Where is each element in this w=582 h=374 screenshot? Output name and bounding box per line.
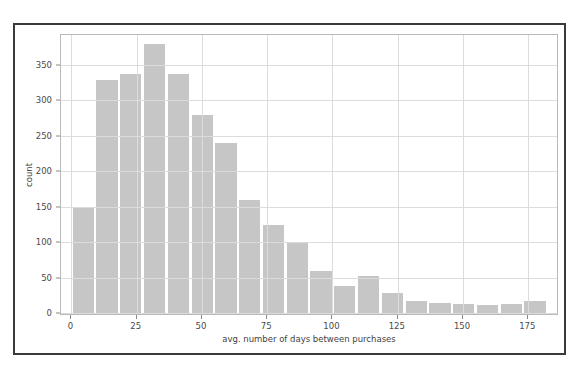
x-tick-mark bbox=[397, 315, 398, 319]
y-tick-label: 350 bbox=[36, 60, 52, 70]
y-axis-label: count bbox=[24, 163, 34, 187]
bar-series bbox=[61, 35, 557, 314]
chart-screenshot: count 050100150200250300350 avg. number … bbox=[0, 0, 582, 374]
y-tick-label: 50 bbox=[41, 273, 52, 283]
histogram-bar bbox=[263, 225, 284, 314]
histogram-bar bbox=[239, 200, 260, 314]
y-tick-label: 300 bbox=[36, 95, 52, 105]
gridline-vertical bbox=[71, 35, 72, 314]
x-tick-mark bbox=[462, 315, 463, 319]
x-tick-mark bbox=[136, 315, 137, 319]
y-tick-label: 0 bbox=[47, 308, 52, 318]
plot-area bbox=[60, 34, 558, 315]
y-tick-label: 250 bbox=[36, 131, 52, 141]
histogram-bar bbox=[215, 143, 236, 314]
gridline-horizontal bbox=[61, 278, 557, 279]
x-tick-label: 50 bbox=[196, 321, 207, 331]
histogram-bar bbox=[96, 80, 117, 314]
x-tick-label: 100 bbox=[323, 321, 339, 331]
gridline-horizontal bbox=[61, 313, 557, 314]
gridline-vertical bbox=[332, 35, 333, 314]
gridline-vertical bbox=[398, 35, 399, 314]
gridline-horizontal bbox=[61, 136, 557, 137]
x-tick-label: 150 bbox=[454, 321, 470, 331]
x-tick-label: 175 bbox=[519, 321, 535, 331]
gridline-horizontal bbox=[61, 207, 557, 208]
y-tick-label: 150 bbox=[36, 202, 52, 212]
x-tick-mark bbox=[331, 315, 332, 319]
gridline-vertical bbox=[267, 35, 268, 314]
gridline-horizontal bbox=[61, 100, 557, 101]
gridline-vertical bbox=[528, 35, 529, 314]
x-tick-label: 75 bbox=[261, 321, 272, 331]
gridline-vertical bbox=[137, 35, 138, 314]
histogram-bar bbox=[334, 286, 355, 314]
gridline-vertical bbox=[202, 35, 203, 314]
x-tick-label: 125 bbox=[389, 321, 405, 331]
gridline-vertical bbox=[463, 35, 464, 314]
y-axis: count 050100150200250300350 bbox=[15, 34, 60, 315]
histogram-bar bbox=[73, 207, 94, 314]
y-tick-label: 200 bbox=[36, 166, 52, 176]
figure-frame: count 050100150200250300350 avg. number … bbox=[13, 23, 566, 355]
histogram-bar bbox=[382, 293, 403, 314]
histogram-bar bbox=[358, 276, 379, 314]
x-tick-mark bbox=[70, 315, 71, 319]
histogram-bar bbox=[144, 44, 165, 314]
x-tick-label: 25 bbox=[130, 321, 141, 331]
x-axis-label: avg. number of days between purchases bbox=[60, 334, 558, 344]
x-tick-label: 0 bbox=[68, 321, 73, 331]
x-tick-mark bbox=[527, 315, 528, 319]
top-caption-text bbox=[8, 0, 208, 6]
x-tick-mark bbox=[266, 315, 267, 319]
gridline-horizontal bbox=[61, 65, 557, 66]
x-axis: avg. number of days between purchases 02… bbox=[60, 315, 558, 355]
gridline-horizontal bbox=[61, 171, 557, 172]
x-tick-mark bbox=[201, 315, 202, 319]
y-tick-label: 100 bbox=[36, 237, 52, 247]
gridline-horizontal bbox=[61, 242, 557, 243]
